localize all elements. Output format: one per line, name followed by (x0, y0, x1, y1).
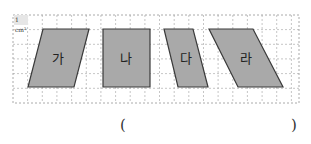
shape-label-na: 나 (120, 52, 132, 65)
shape-label-ra: 라 (240, 52, 252, 65)
grid-figure: 1 cm² 가 나 다 라 (0, 0, 311, 110)
unit-area-label: 1 cm² (14, 15, 28, 25)
shape-label-ga: 가 (52, 52, 64, 65)
answer-close-paren: ) (291, 116, 297, 134)
answer-blank[interactable] (132, 116, 290, 136)
answer-open-paren: ( (120, 116, 126, 134)
grid-canvas (0, 0, 311, 110)
shape-label-da: 다 (180, 52, 192, 65)
